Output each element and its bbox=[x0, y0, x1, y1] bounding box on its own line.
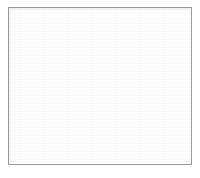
venn-diagram bbox=[9, 8, 192, 165]
figure-plate-frame bbox=[8, 7, 192, 165]
figure-root bbox=[0, 0, 200, 178]
venn-circle-right bbox=[85, 63, 177, 155]
